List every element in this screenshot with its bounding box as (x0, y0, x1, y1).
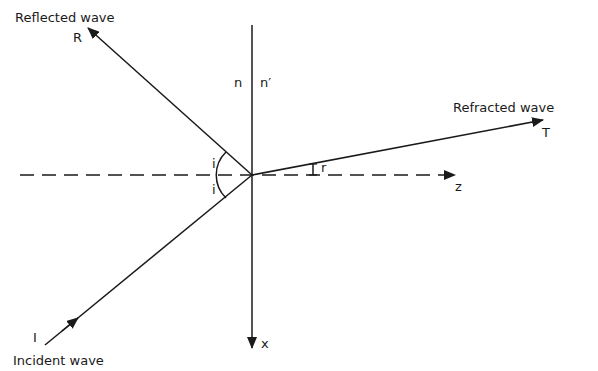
refracted-ray (252, 120, 543, 175)
incident-wave-label: Incident wave (13, 353, 104, 368)
ray-diagram: Reflected wave R Refracted wave T I Inci… (0, 0, 598, 371)
medium-n-prime-label: n′ (260, 75, 271, 90)
angle-i-lower-label: i (212, 182, 216, 197)
x-axis-label: x (261, 336, 269, 351)
refracted-wave-label: Refracted wave (453, 100, 554, 115)
angle-i-upper-label: i (212, 156, 216, 171)
reflected-ray (88, 28, 252, 175)
incident-symbol-label: I (33, 330, 37, 345)
z-axis-label: z (455, 179, 462, 194)
medium-n-label: n (234, 75, 242, 90)
angle-r-label: r (321, 160, 327, 175)
reflected-wave-label: Reflected wave (15, 10, 115, 25)
reflected-symbol-label: R (73, 30, 82, 45)
refracted-symbol-label: T (541, 125, 550, 140)
incident-arrow-icon (62, 318, 78, 331)
